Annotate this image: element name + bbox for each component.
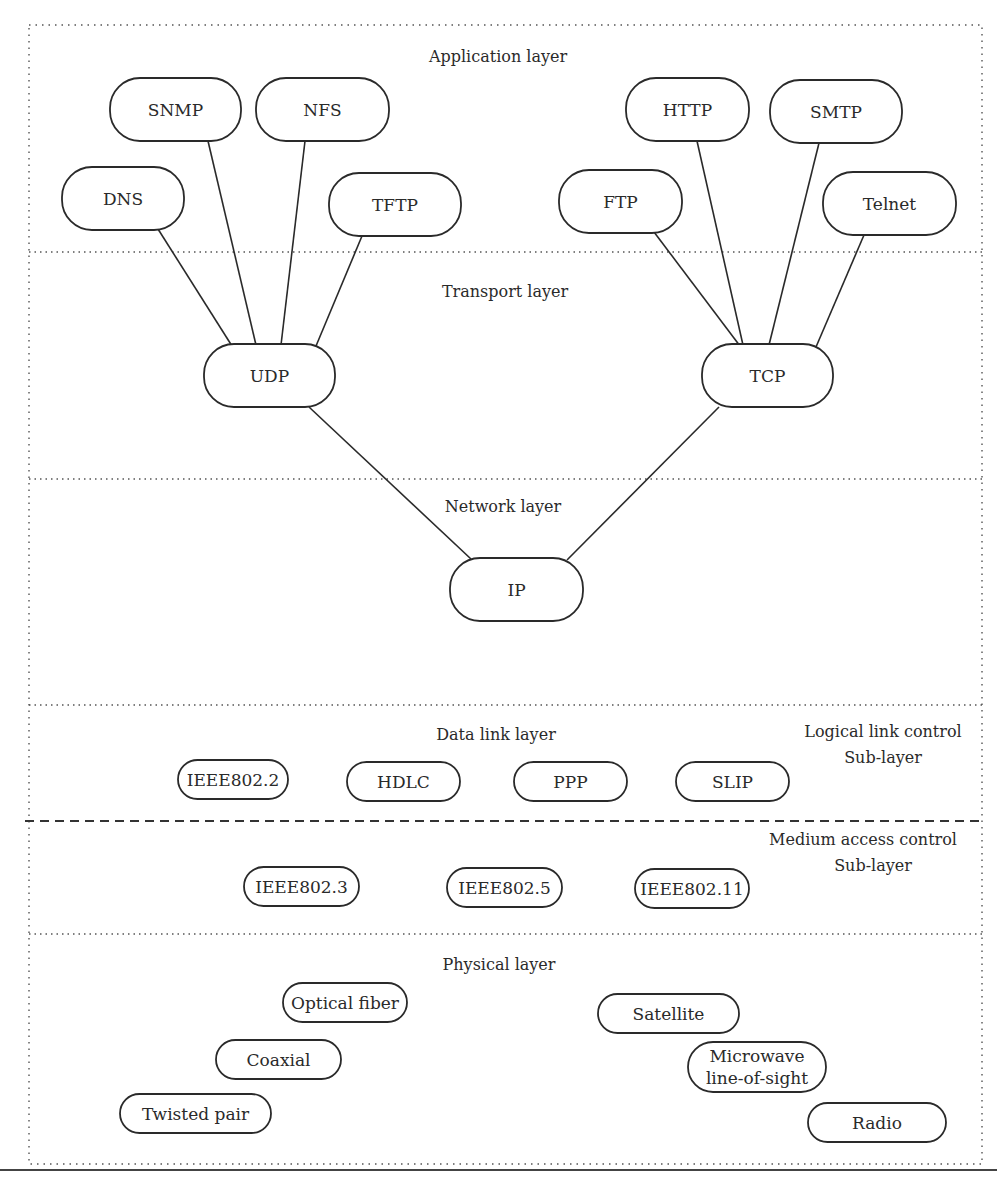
node-telnet-label: Telnet <box>863 194 917 214</box>
node-ppp-label: PPP <box>553 772 587 792</box>
edge-http-to-tcp <box>697 141 743 345</box>
physical-layer-title: Physical layer <box>443 955 556 974</box>
network-layer-title: Network layer <box>445 497 562 516</box>
node-tftp: TFTP <box>329 173 461 236</box>
node-slip-label: SLIP <box>712 772 753 792</box>
node-smtp: SMTP <box>770 80 902 143</box>
node-ieee802-5-label: IEEE802.5 <box>458 878 551 898</box>
edge-ftp-to-tcp <box>654 232 740 346</box>
node-microwave-label: Microwave <box>709 1046 804 1066</box>
node-optical-fiber: Optical fiber <box>283 983 407 1022</box>
nodes-group: SNMPNFSDNSTFTPHTTPSMTPFTPTelnetUDPTCPIPI… <box>62 78 956 1142</box>
node-telnet: Telnet <box>823 172 956 235</box>
edge-dns-to-udp <box>158 229 232 346</box>
edge-udp-to-ip <box>309 407 471 559</box>
node-ieee802-2-label: IEEE802.2 <box>187 770 280 790</box>
application-layer-title: Application layer <box>428 47 568 66</box>
node-radio: Radio <box>808 1103 946 1142</box>
node-ppp: PPP <box>514 762 627 801</box>
edge-nfs-to-udp <box>281 141 305 345</box>
node-ip: IP <box>450 558 583 621</box>
edge-smtp-to-tcp <box>769 143 819 345</box>
node-smtp-label: SMTP <box>810 102 862 122</box>
node-twisted-pair: Twisted pair <box>120 1094 271 1133</box>
node-nfs-label: NFS <box>303 100 341 120</box>
node-radio-label: Radio <box>852 1113 902 1133</box>
node-microwave: Microwaveline-of-sight <box>688 1042 826 1092</box>
node-udp-label: UDP <box>250 366 289 386</box>
node-http-label: HTTP <box>663 100 712 120</box>
node-slip: SLIP <box>676 762 789 801</box>
edge-snmp-to-udp <box>208 141 256 345</box>
node-dns: DNS <box>62 167 184 230</box>
node-ieee802-3: IEEE802.3 <box>244 867 359 906</box>
node-snmp: SNMP <box>110 78 241 141</box>
tcp-ip-protocol-stack-diagram: Application layer Transport layer Networ… <box>0 0 997 1177</box>
node-ip-label: IP <box>507 580 525 600</box>
edge-tcp-to-ip <box>567 407 719 560</box>
node-ieee802-3-label: IEEE802.3 <box>255 877 348 897</box>
node-tcp: TCP <box>702 344 833 407</box>
node-satellite: Satellite <box>598 994 739 1033</box>
node-hdlc-label: HDLC <box>377 772 430 792</box>
node-twisted-pair-label: Twisted pair <box>142 1104 250 1124</box>
node-udp: UDP <box>204 344 335 407</box>
llc-sublayer-title-line1: Logical link control <box>804 722 961 741</box>
node-satellite-label: Satellite <box>633 1004 705 1024</box>
mac-sublayer-title-line1: Medium access control <box>769 830 957 849</box>
node-http: HTTP <box>626 78 749 141</box>
node-snmp-label: SNMP <box>148 100 203 120</box>
mac-sublayer-title-line2: Sub-layer <box>834 856 912 875</box>
node-ieee802-5: IEEE802.5 <box>447 868 562 907</box>
node-tftp-label: TFTP <box>372 195 418 215</box>
edge-telnet-to-tcp <box>816 235 864 347</box>
node-coaxial: Coaxial <box>216 1040 341 1079</box>
node-ieee802-11-label: IEEE802.11 <box>640 879 743 899</box>
node-ftp-label: FTP <box>603 192 638 212</box>
node-hdlc: HDLC <box>347 762 460 801</box>
node-ieee802-2: IEEE802.2 <box>178 760 288 799</box>
node-optical-fiber-label: Optical fiber <box>291 993 400 1013</box>
node-nfs: NFS <box>256 78 389 141</box>
node-microwave-label: line-of-sight <box>706 1068 808 1088</box>
node-dns-label: DNS <box>103 189 143 209</box>
edge-tftp-to-udp <box>316 236 362 346</box>
transport-layer-title: Transport layer <box>442 282 569 301</box>
llc-sublayer-title-line2: Sub-layer <box>844 748 922 767</box>
node-coaxial-label: Coaxial <box>247 1050 311 1070</box>
node-ieee802-11: IEEE802.11 <box>635 869 749 908</box>
node-tcp-label: TCP <box>750 366 786 386</box>
node-ftp: FTP <box>559 170 682 233</box>
datalink-layer-title: Data link layer <box>436 725 556 744</box>
